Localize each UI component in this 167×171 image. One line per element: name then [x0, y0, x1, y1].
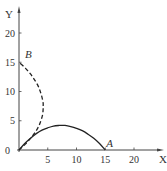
x-tick-label: 15: [100, 154, 110, 165]
y-tick-label: 5: [10, 115, 15, 126]
y-axis-label: Y: [5, 8, 13, 20]
x-tick-label: 5: [45, 154, 50, 165]
dashed-curve-B: [19, 62, 43, 150]
trajectory-chart: 5101520 5101520 X Y 0 A B: [0, 0, 167, 171]
x-axis-label: X: [159, 153, 167, 165]
x-tick-label: 10: [72, 154, 82, 165]
y-tick-label: 20: [5, 28, 15, 39]
point-label-A: A: [105, 137, 113, 149]
x-tick-label: 20: [129, 154, 139, 165]
origin-label: 0: [5, 145, 10, 156]
solid-curve-A: [19, 125, 105, 150]
y-tick-label: 15: [5, 57, 15, 68]
y-tick-label: 10: [5, 86, 15, 97]
y-axis-arrow-icon: [18, 6, 21, 13]
x-axis-arrow-icon: [157, 149, 164, 152]
point-label-B: B: [25, 48, 32, 60]
